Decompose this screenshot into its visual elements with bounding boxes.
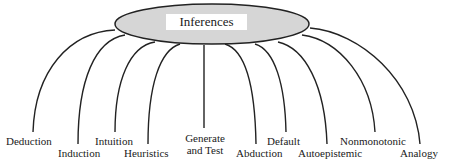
label-default: Default: [267, 135, 300, 147]
root-node-label: Inferences: [166, 14, 247, 30]
label-analogy: Analogy: [400, 147, 438, 159]
connector-default: [255, 44, 286, 132]
connector-deduction: [33, 30, 115, 132]
connector-heuristics: [148, 44, 180, 144]
connector-induction: [78, 35, 125, 144]
connector-abduction: [225, 44, 256, 144]
label-autoepistemic: Autoepistemic: [298, 147, 362, 159]
label-intuition: Intuition: [95, 135, 133, 147]
connector-nonmonotonic: [302, 35, 375, 132]
connector-lines: [33, 28, 420, 144]
label-induction: Induction: [58, 147, 100, 159]
label-deduction: Deduction: [6, 135, 52, 147]
label-heuristics: Heuristics: [124, 147, 169, 159]
label-generate-line1: Generate: [180, 132, 230, 144]
label-generate-line2: and Test: [180, 144, 230, 156]
label-abduction: Abduction: [236, 147, 282, 159]
label-generate-and-test: Generate and Test: [180, 132, 230, 156]
label-nonmonotonic: Nonmonotonic: [340, 135, 406, 147]
